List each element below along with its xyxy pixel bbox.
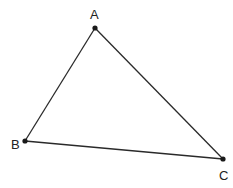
vertex-a-label: A — [90, 7, 99, 22]
edge-bc — [25, 141, 223, 159]
edge-ab — [25, 28, 95, 141]
triangle-svg: A B C — [0, 0, 233, 188]
vertex-c-point — [220, 156, 225, 161]
vertex-b-label: B — [11, 137, 20, 152]
vertex-c-label: C — [219, 168, 228, 183]
edge-ca — [95, 28, 223, 159]
vertex-b-point — [22, 138, 27, 143]
triangle-diagram: A B C — [0, 0, 233, 188]
vertex-a-point — [92, 25, 97, 30]
